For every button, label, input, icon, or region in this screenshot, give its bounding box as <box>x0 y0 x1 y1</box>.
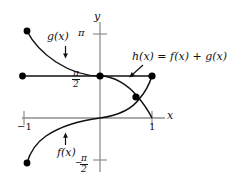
point-g-left-endpoint <box>24 28 31 35</box>
point-fg-intersection <box>132 93 139 100</box>
x-tick-label-neg-one: −1 <box>17 122 32 132</box>
point-f-left-endpoint <box>24 160 31 167</box>
pi-half-denominator: 2 <box>72 80 80 89</box>
y-tick-label-pi-half: π 2 <box>72 69 80 89</box>
curve-label-h: h(x) = f(x) + g(x) <box>132 51 227 62</box>
y-tick-label-pi: π <box>78 28 85 38</box>
curve-label-f: f(x) <box>57 147 76 158</box>
arrow-f-annotation <box>63 133 68 145</box>
point-right-endpoint-shared <box>148 72 155 79</box>
figure-canvas: y x g(x) f(x) h(x) = f(x) + g(x) π π 2 −… <box>0 0 228 180</box>
point-h-left-endpoint <box>19 73 26 80</box>
curve-label-g: g(x) <box>47 31 69 42</box>
x-tick-label-pos-one: 1 <box>149 122 155 132</box>
graph-plot <box>0 0 228 180</box>
neg-pi-half-minus-sign: − <box>75 158 83 167</box>
curve-f <box>27 76 152 163</box>
point-origin-crossing <box>96 72 103 79</box>
y-tick-label-neg-pi-half: − π 2 <box>80 154 88 174</box>
arrow-g-annotation <box>63 46 68 59</box>
pi-half-numerator: π <box>72 69 80 78</box>
y-axis-label: y <box>94 11 100 22</box>
x-axis-label: x <box>167 110 173 121</box>
